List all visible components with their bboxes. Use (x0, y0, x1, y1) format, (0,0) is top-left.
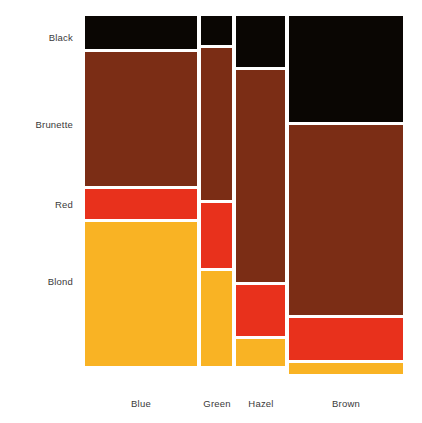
mosaic-tile-blue-blond[interactable] (85, 222, 197, 366)
mosaic-plot-area (0, 0, 422, 423)
mosaic-tile-brown-blond[interactable] (289, 363, 403, 374)
mosaic-tile-green-red[interactable] (201, 203, 232, 268)
mosaic-tile-green-blond[interactable] (201, 271, 232, 366)
mosaic-tile-hazel-blond[interactable] (236, 339, 285, 366)
mosaic-plot-figure: BlackBrunetteRedBlondBlueGreenHazelBrown (0, 0, 422, 423)
mosaic-tile-blue-black[interactable] (85, 16, 197, 49)
mosaic-tile-green-brunette[interactable] (201, 48, 232, 200)
mosaic-tile-blue-brunette[interactable] (85, 52, 197, 186)
row-label-red: Red (55, 199, 73, 210)
row-label-black: Black (49, 32, 73, 43)
row-label-blond: Blond (48, 276, 73, 287)
mosaic-tile-hazel-red[interactable] (236, 285, 285, 336)
mosaic-tile-green-black[interactable] (201, 16, 232, 45)
row-label-brunette: Brunette (35, 119, 73, 130)
column-label-brown: Brown (332, 398, 360, 409)
mosaic-tile-hazel-brunette[interactable] (236, 70, 285, 282)
column-label-green: Green (203, 398, 230, 409)
mosaic-tile-brown-red[interactable] (289, 318, 403, 360)
column-label-hazel: Hazel (248, 398, 273, 409)
mosaic-tile-hazel-black[interactable] (236, 16, 285, 67)
mosaic-tile-brown-brunette[interactable] (289, 125, 403, 315)
mosaic-tile-blue-red[interactable] (85, 189, 197, 219)
mosaic-tile-brown-black[interactable] (289, 16, 403, 122)
column-label-blue: Blue (131, 398, 151, 409)
